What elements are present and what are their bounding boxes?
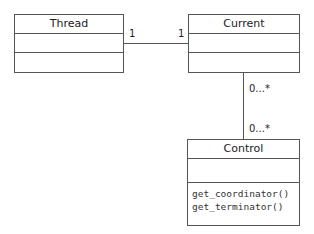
- class-thread-operations: [15, 53, 123, 72]
- class-control: Control get_coordinator() get_terminator…: [187, 139, 300, 226]
- class-thread-attributes: [15, 34, 123, 53]
- class-current-attributes: [189, 34, 299, 53]
- operation-get-coordinator: get_coordinator(): [192, 187, 299, 200]
- association-current-control: [243, 73, 244, 139]
- multiplicity-control: 0...*: [249, 124, 270, 134]
- class-thread-name: Thread: [15, 15, 123, 34]
- class-current-name: Current: [189, 15, 299, 34]
- operation-get-terminator: get_terminator(): [192, 200, 299, 213]
- class-control-operations: get_coordinator() get_terminator(): [188, 183, 299, 213]
- class-current-operations: [189, 53, 299, 72]
- class-thread: Thread: [14, 14, 124, 73]
- association-thread-current: [124, 43, 188, 44]
- class-control-name: Control: [188, 140, 299, 159]
- multiplicity-current-thread: 1: [178, 29, 184, 39]
- class-control-attributes: [188, 159, 299, 183]
- multiplicity-current-control: 0...*: [249, 84, 270, 94]
- multiplicity-thread: 1: [129, 29, 135, 39]
- class-current: Current: [188, 14, 300, 73]
